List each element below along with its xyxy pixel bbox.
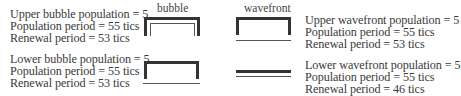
bracket-left <box>236 17 239 35</box>
bracket-top <box>144 61 199 64</box>
lower-bubble-renewal-period: Renewal period = 53 tics <box>10 77 130 89</box>
inner-bracket-top <box>150 23 195 24</box>
bubble-header: bubble <box>157 2 188 14</box>
lower-wavefront-renewal-period: Renewal period = 46 tics <box>305 83 425 95</box>
baseline <box>236 40 291 41</box>
thin-line <box>236 76 291 77</box>
upper-wavefront-renewal-period: Renewal period = 53 tics <box>305 38 425 50</box>
upper-bubble-renewal-period: Renewal period = 53 tics <box>10 32 130 44</box>
inner-bracket-right <box>194 23 195 36</box>
outer-bracket-top <box>144 17 200 20</box>
outer-bracket-left <box>144 17 147 36</box>
wavefront-header: wavefront <box>244 2 291 14</box>
bracket-top <box>236 17 291 20</box>
thick-line <box>236 70 291 73</box>
bracket-right <box>196 61 199 79</box>
baseline <box>143 83 200 84</box>
inner-bracket-left <box>150 23 151 36</box>
bracket-right <box>288 17 291 35</box>
outer-bracket-right <box>197 17 200 36</box>
bracket-left <box>144 61 147 79</box>
